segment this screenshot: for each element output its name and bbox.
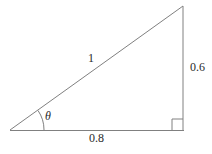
- hypotenuse-line: [10, 6, 183, 130]
- right-angle-marker: [172, 119, 183, 130]
- adjacent-side-label: 0.8: [89, 132, 104, 144]
- theta-angle-arc: [38, 111, 44, 131]
- hypotenuse-label: 1: [88, 52, 94, 64]
- opposite-side-label: 0.6: [190, 61, 205, 73]
- theta-angle-label: θ: [45, 110, 51, 122]
- triangle-figure: 1 0.6 0.8 θ: [0, 0, 212, 154]
- triangle-svg: [0, 0, 212, 154]
